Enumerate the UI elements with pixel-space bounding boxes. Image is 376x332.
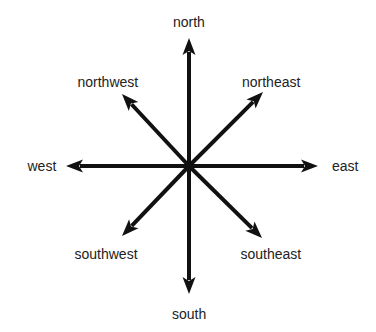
arrow-shaft-southeast bbox=[189, 166, 252, 228]
arrow-shaft-northwest bbox=[132, 104, 189, 166]
label-northwest: northwest bbox=[78, 74, 139, 90]
label-southwest: southwest bbox=[75, 246, 138, 262]
label-south: south bbox=[172, 306, 206, 322]
label-west: west bbox=[28, 158, 57, 174]
label-southeast: southeast bbox=[241, 246, 302, 262]
label-north: north bbox=[173, 14, 205, 30]
compass-diagram: north northeast east southeast south sou… bbox=[0, 0, 376, 332]
label-east: east bbox=[332, 158, 358, 174]
compass-arrows bbox=[0, 0, 376, 332]
label-northeast: northeast bbox=[242, 74, 300, 90]
arrow-shaft-southwest bbox=[132, 166, 189, 226]
arrow-shaft-northeast bbox=[189, 102, 253, 166]
